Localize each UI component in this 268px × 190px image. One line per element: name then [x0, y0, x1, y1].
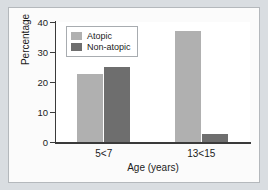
- bar: [104, 67, 130, 142]
- x-axis-title: Age (years): [55, 162, 251, 173]
- chart-figure: 010203040 Percentage 5<713<15 Age (years…: [0, 0, 268, 190]
- y-axis-tick: [50, 22, 55, 23]
- legend-label: Atopic: [87, 32, 112, 41]
- legend-swatch-icon: [71, 32, 82, 40]
- y-axis-title: Percentage: [20, 0, 31, 85]
- x-axis-line: [55, 142, 251, 144]
- y-axis-tick-label: 0: [26, 137, 48, 148]
- bar: [202, 134, 228, 142]
- legend-item: Non-atopic: [71, 42, 131, 52]
- x-axis-tick-label: 5<7: [95, 148, 112, 159]
- bar: [175, 31, 201, 142]
- x-axis-tick-label: 13<15: [187, 148, 215, 159]
- y-axis-tick: [50, 142, 55, 143]
- chart-legend: AtopicNon-atopic: [66, 26, 138, 57]
- y-axis-line: [55, 21, 56, 143]
- legend-item: Atopic: [71, 31, 131, 41]
- y-axis-tick: [50, 52, 55, 53]
- y-axis-tick: [50, 112, 55, 113]
- y-axis-tick: [50, 82, 55, 83]
- legend-label: Non-atopic: [87, 43, 131, 52]
- bar: [77, 74, 103, 142]
- y-axis-tick-label: 10: [26, 107, 48, 118]
- legend-swatch-icon: [71, 43, 82, 51]
